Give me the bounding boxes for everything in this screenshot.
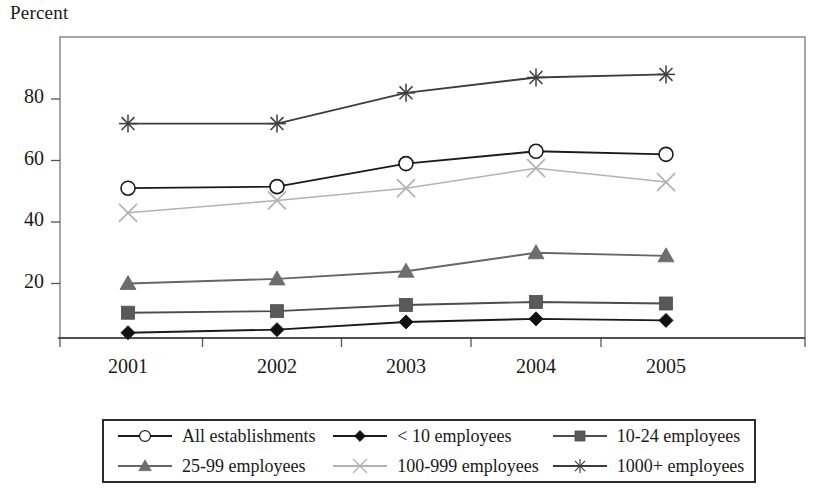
legend-label: 25-99 employees: [182, 456, 305, 477]
series-3: [120, 245, 674, 290]
legend-marker-icon: [116, 427, 174, 445]
legend-label: 10-24 employees: [617, 426, 740, 447]
series-1: [121, 312, 673, 340]
data-series-layer: [119, 65, 675, 339]
x-tick-label-2005: 2005: [621, 355, 711, 378]
legend-label: All establishments: [182, 426, 316, 447]
series-4: [119, 159, 675, 222]
axis-ticks: [51, 99, 805, 347]
y-tick-label: 40: [0, 208, 44, 231]
x-tick-label-2003: 2003: [361, 355, 451, 378]
legend-marker-icon: [331, 457, 389, 475]
legend-label: < 10 employees: [397, 426, 511, 447]
legend-item-4[interactable]: 100-999 employees: [319, 456, 538, 477]
legend-label: 1000+ employees: [617, 456, 745, 477]
chart-legend: All establishments< 10 employees10-24 em…: [102, 419, 756, 483]
series-2: [122, 295, 673, 319]
legend-item-3[interactable]: 25-99 employees: [104, 456, 319, 477]
x-tick-label-2004: 2004: [491, 355, 581, 378]
series-5: [119, 65, 675, 132]
legend-item-0[interactable]: All establishments: [104, 426, 319, 447]
series-0: [121, 144, 673, 195]
legend-marker-icon: [551, 457, 609, 475]
legend-marker-icon: [116, 457, 174, 475]
legend-marker-icon: [551, 427, 609, 445]
y-tick-label: 20: [0, 270, 44, 293]
legend-item-1[interactable]: < 10 employees: [319, 426, 538, 447]
chart-container: Percent 20406080 20012002200320042005 Al…: [0, 0, 814, 499]
x-tick-label-2002: 2002: [232, 355, 322, 378]
legend-item-2[interactable]: 10-24 employees: [539, 426, 754, 447]
legend-marker-icon: [331, 427, 389, 445]
legend-label: 100-999 employees: [397, 456, 538, 477]
y-tick-label: 60: [0, 147, 44, 170]
legend-item-5[interactable]: 1000+ employees: [539, 456, 754, 477]
y-tick-label: 80: [0, 85, 44, 108]
x-tick-label-2001: 2001: [83, 355, 173, 378]
